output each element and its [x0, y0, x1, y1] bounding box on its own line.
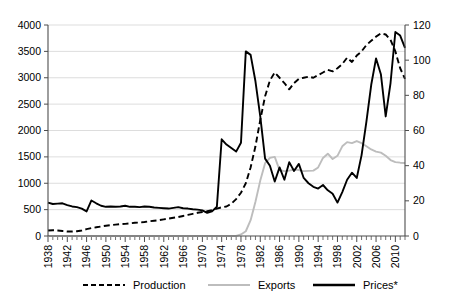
legend-label-production: Production: [133, 279, 186, 291]
chart-plot-area: 05001000150020002500300035004000 0204060…: [0, 0, 450, 305]
x-axis-tick-label: 1986: [273, 245, 285, 269]
x-axis-tick-label: 1958: [138, 245, 150, 269]
x-axis-tick-label: 1954: [119, 245, 131, 269]
x-axis-tick-label: 1998: [331, 245, 343, 269]
y-axis-right-tick-label: 0: [413, 230, 419, 242]
x-axis-tick-label: 1978: [235, 245, 247, 269]
y-axis-right-tick-label: 40: [413, 159, 425, 171]
y-axis-left-tick-label: 500: [23, 203, 41, 215]
x-axis-tick-label: 1938: [42, 245, 54, 269]
x-axis-tick-label: 1990: [293, 245, 305, 269]
y-axis-left-tick-label: 4000: [18, 19, 42, 31]
x-axis-tick-label: 2010: [389, 245, 401, 269]
y-axis-left-tick-label: 2000: [18, 124, 42, 136]
chart-figure: 05001000150020002500300035004000 0204060…: [0, 0, 450, 305]
y-axis-left-tick-label: 0: [35, 230, 41, 242]
x-axis-tick-label: 1942: [61, 245, 73, 269]
x-axis-tick-label: 1950: [100, 245, 112, 269]
chart-svg: 05001000150020002500300035004000 0204060…: [0, 0, 450, 305]
y-axis-left-tick-label: 1500: [18, 150, 42, 162]
x-axis-tick-label: 1962: [158, 245, 170, 269]
y-axis-left-tick-label: 3000: [18, 71, 42, 83]
x-axis-tick-label: 1994: [312, 245, 324, 269]
legend-label-prices: Prices*: [363, 279, 399, 291]
x-axis-tick-label: 1946: [80, 245, 92, 269]
x-axis-tick-label: 1970: [196, 245, 208, 269]
y-axis-right-tick-label: 60: [413, 124, 425, 136]
y-axis-left-tick-label: 2500: [18, 98, 42, 110]
x-axis-tick-label: 1982: [254, 245, 266, 269]
legend-label-exports: Exports: [258, 279, 296, 291]
y-axis-left-tick-label: 3500: [18, 45, 42, 57]
x-axis-tick-label: 1974: [215, 245, 227, 269]
x-axis-tick-label: 2002: [351, 245, 363, 269]
y-axis-right-tick-label: 20: [413, 194, 425, 206]
y-axis-right-tick-label: 100: [413, 54, 431, 66]
x-axis-tick-label: 1966: [177, 245, 189, 269]
y-axis-right-tick-label: 120: [413, 19, 431, 31]
y-axis-left-tick-label: 1000: [18, 177, 42, 189]
x-axis-tick-label: 2006: [370, 245, 382, 269]
y-axis-right-tick-label: 80: [413, 89, 425, 101]
